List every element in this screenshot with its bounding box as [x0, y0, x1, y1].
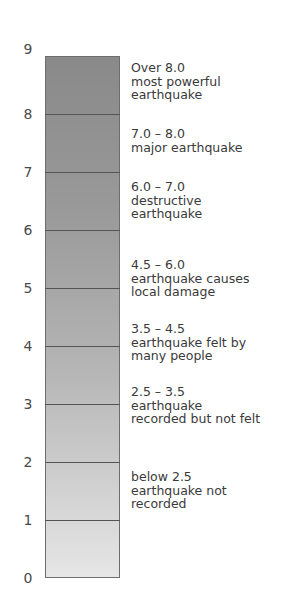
band-description: earthquake: [131, 207, 202, 221]
band-range: below 2.5: [131, 470, 227, 484]
y-tick-3: 3: [20, 397, 36, 411]
band-range: 7.0 – 8.0: [131, 127, 242, 141]
band-description: earthquake felt by: [131, 336, 246, 350]
band-range: 4.5 – 6.0: [131, 258, 249, 272]
y-tick-1: 1: [20, 513, 36, 527]
band-label-4_5-6: 4.5 – 6.0 earthquake causes local damage: [131, 258, 249, 299]
y-tick-0: 0: [20, 571, 36, 585]
gridline-7: [45, 172, 120, 173]
band-description: earthquake: [131, 88, 221, 102]
y-tick-2: 2: [20, 455, 36, 469]
band-description: earthquake causes: [131, 272, 249, 286]
gridline-1: [45, 520, 120, 521]
y-tick-5: 5: [20, 281, 36, 295]
band-description: recorded: [131, 497, 227, 511]
gridline-3: [45, 404, 120, 405]
gridline-4: [45, 346, 120, 347]
band-description: earthquake: [131, 399, 260, 413]
band-description: most powerful: [131, 75, 221, 89]
gridline-5: [45, 288, 120, 289]
band-range: 2.5 – 3.5: [131, 385, 260, 399]
gridline-8: [45, 114, 120, 115]
band-label-below-2_5: below 2.5 earthquake not recorded: [131, 470, 227, 511]
gridline-2: [45, 462, 120, 463]
band-description: earthquake not: [131, 484, 227, 498]
band-description: recorded but not felt: [131, 412, 260, 426]
band-label-6-7: 6.0 – 7.0 destructive earthquake: [131, 180, 202, 221]
y-tick-8: 8: [20, 107, 36, 121]
band-label-over-8: Over 8.0 most powerful earthquake: [131, 61, 221, 102]
band-label-3_5-4_5: 3.5 – 4.5 earthquake felt by many people: [131, 322, 246, 363]
magnitude-scale-bar: [45, 56, 120, 578]
y-tick-4: 4: [20, 339, 36, 353]
band-description: local damage: [131, 285, 249, 299]
y-tick-6: 6: [20, 223, 36, 237]
band-range: Over 8.0: [131, 61, 221, 75]
y-tick-9: 9: [20, 42, 36, 56]
gridline-6: [45, 230, 120, 231]
band-range: 6.0 – 7.0: [131, 180, 202, 194]
band-label-7-8: 7.0 – 8.0 major earthquake: [131, 127, 242, 154]
band-description: major earthquake: [131, 141, 242, 155]
band-range: 3.5 – 4.5: [131, 322, 246, 336]
band-label-2_5-3_5: 2.5 – 3.5 earthquake recorded but not fe…: [131, 385, 260, 426]
band-description: many people: [131, 349, 246, 363]
band-description: destructive: [131, 194, 202, 208]
y-tick-7: 7: [20, 165, 36, 179]
